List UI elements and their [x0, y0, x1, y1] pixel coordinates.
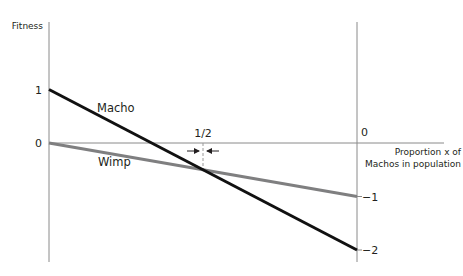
y-axis-title: Fitness [12, 21, 43, 31]
series-label-wimp: Wimp [98, 155, 131, 169]
equilibrium-marker [187, 143, 219, 170]
series-line-macho [49, 90, 357, 251]
right-pointing-arrow-icon [194, 148, 200, 154]
left-tick-label: 0 [35, 137, 42, 150]
right-tick-label: −2 [362, 244, 378, 257]
right-tick-label: −1 [362, 191, 378, 204]
series-label-macho: Macho [97, 101, 135, 115]
right-tick-label: 0 [361, 126, 368, 139]
series-lines [49, 90, 357, 251]
x-axis-title-line1: Proportion x of [395, 147, 462, 157]
fitness-chart: 100−1−2 Fitness Proportion x of Machos i… [0, 0, 463, 276]
left-pointing-arrow-icon [206, 148, 212, 154]
left-tick-label: 1 [35, 84, 42, 97]
equilibrium-label: 1/2 [194, 127, 212, 140]
x-axis-title-line2: Machos in population [365, 159, 461, 169]
axes: 100−1−2 [35, 22, 444, 262]
